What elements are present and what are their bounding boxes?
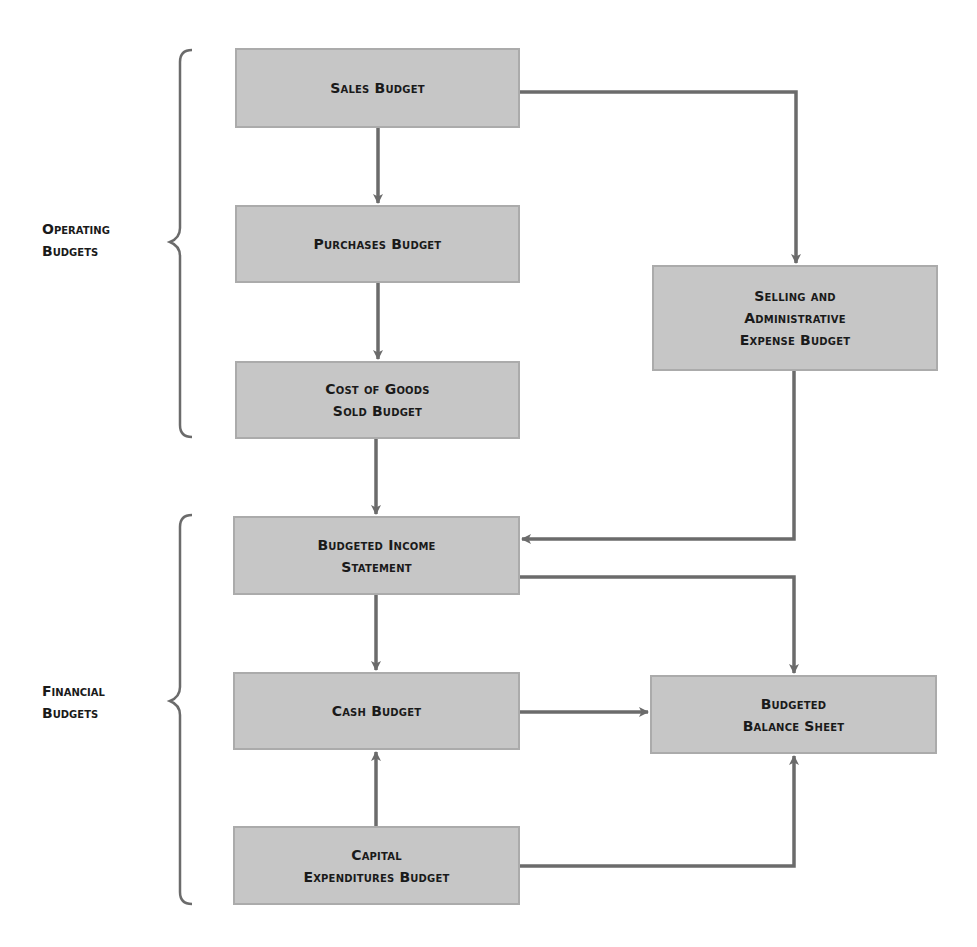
operating-brace bbox=[170, 50, 192, 437]
node-label: Balance Sheet bbox=[743, 715, 844, 737]
node-label: Statement bbox=[317, 556, 435, 578]
node-label: Administrative bbox=[740, 307, 850, 329]
arrow-selling-income bbox=[522, 371, 794, 539]
arrow-capital-balance bbox=[520, 756, 794, 866]
node-label: Capital bbox=[303, 844, 449, 866]
node-label: Sales Budget bbox=[330, 77, 424, 99]
node-budgeted-income-statement: Budgeted Income Statement bbox=[233, 516, 520, 595]
group-label-line: Budgets bbox=[42, 240, 110, 262]
node-label: Budgeted bbox=[743, 693, 844, 715]
node-label: Selling and bbox=[740, 285, 850, 307]
node-label: Cash Budget bbox=[332, 700, 422, 722]
node-label: Sold Budget bbox=[325, 400, 429, 422]
node-label: Purchases Budget bbox=[314, 233, 442, 255]
group-label-operating: Operating Budgets bbox=[42, 218, 110, 262]
group-label-line: Budgets bbox=[42, 702, 105, 724]
node-budgeted-balance-sheet: Budgeted Balance Sheet bbox=[650, 675, 937, 754]
node-capital-expenditures-budget: Capital Expenditures Budget bbox=[233, 826, 520, 905]
arrow-sales-selling bbox=[520, 92, 796, 263]
node-purchases-budget: Purchases Budget bbox=[235, 205, 520, 283]
node-cash-budget: Cash Budget bbox=[233, 672, 520, 750]
node-selling-admin-budget: Selling and Administrative Expense Budge… bbox=[652, 265, 938, 371]
arrow-income-balance bbox=[520, 577, 794, 673]
group-label-line: Financial bbox=[42, 680, 105, 702]
connectors-layer bbox=[0, 0, 977, 947]
group-label-line: Operating bbox=[42, 218, 110, 240]
node-label: Cost of Goods bbox=[325, 378, 429, 400]
node-label: Budgeted Income bbox=[317, 534, 435, 556]
node-sales-budget: Sales Budget bbox=[235, 48, 520, 128]
group-label-financial: Financial Budgets bbox=[42, 680, 105, 724]
node-cogs-budget: Cost of Goods Sold Budget bbox=[235, 361, 520, 439]
financial-brace bbox=[170, 515, 192, 904]
node-label: Expense Budget bbox=[740, 329, 850, 351]
node-label: Expenditures Budget bbox=[303, 866, 449, 888]
